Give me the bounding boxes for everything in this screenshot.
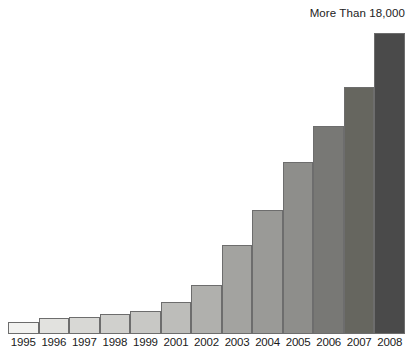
bar-rect-1999 — [130, 311, 161, 334]
bar-1996[interactable] — [39, 318, 70, 334]
bar-rect-2001 — [161, 302, 192, 334]
bar-1995[interactable] — [8, 322, 39, 334]
plot-area — [8, 0, 405, 334]
bar-rect-2006 — [313, 126, 344, 334]
x-axis-label-2002: 2002 — [191, 336, 222, 348]
bar-rect-2003 — [222, 245, 253, 334]
x-axis-label-1996: 1996 — [39, 336, 70, 348]
x-axis-label-2003: 2003 — [222, 336, 253, 348]
bar-rect-1995 — [8, 322, 39, 334]
bar-2008[interactable] — [374, 33, 405, 334]
bar-2004[interactable] — [252, 210, 283, 334]
bar-2001[interactable] — [161, 302, 192, 334]
bar-rect-1996 — [39, 318, 70, 334]
bar-1998[interactable] — [100, 314, 131, 334]
x-axis-label-2001: 2001 — [161, 336, 192, 348]
x-axis-label-1995: 1995 — [8, 336, 39, 348]
x-axis-label-1997: 1997 — [69, 336, 100, 348]
bar-2007[interactable] — [344, 87, 375, 334]
x-axis-label-2004: 2004 — [252, 336, 283, 348]
bar-2006[interactable] — [313, 126, 344, 334]
x-axis-label-2007: 2007 — [344, 336, 375, 348]
bar-1999[interactable] — [130, 311, 161, 334]
x-axis-label-1999: 1999 — [130, 336, 161, 348]
x-axis-label-2005: 2005 — [283, 336, 314, 348]
x-axis-label-1998: 1998 — [100, 336, 131, 348]
bar-2002[interactable] — [191, 285, 222, 334]
bar-2003[interactable] — [222, 245, 253, 334]
bar-rect-2008 — [374, 33, 405, 334]
bar-rect-2007 — [344, 87, 375, 334]
bar-chart: More Than 18,000 19951996199719981999200… — [0, 0, 414, 364]
bar-rect-2005 — [283, 162, 314, 334]
bar-rect-1997 — [69, 317, 100, 334]
x-axis-label-2006: 2006 — [313, 336, 344, 348]
x-axis-label-2008: 2008 — [374, 336, 405, 348]
bar-rect-2002 — [191, 285, 222, 334]
bar-1997[interactable] — [69, 317, 100, 334]
bar-rect-1998 — [100, 314, 131, 334]
bar-2005[interactable] — [283, 162, 314, 334]
x-axis-tick-labels: 1995199619971998199920012002200320042005… — [8, 336, 405, 356]
bar-rect-2004 — [252, 210, 283, 334]
